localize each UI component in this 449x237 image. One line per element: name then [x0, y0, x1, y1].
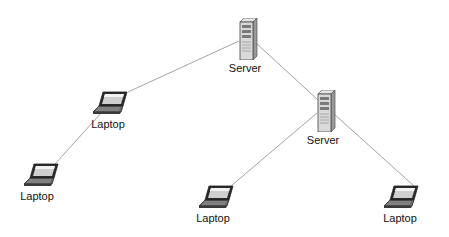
server-node[interactable]: [238, 18, 258, 60]
laptop-icon: [93, 90, 129, 116]
laptop-label: Laptop: [91, 118, 125, 130]
laptop-icon: [384, 184, 420, 210]
link-server-2-laptop-4: [333, 113, 414, 186]
laptop-node[interactable]: [93, 90, 129, 116]
server-label: Server: [229, 62, 261, 74]
link-server-2-laptop-3: [231, 113, 317, 186]
link-server-1-server-2: [256, 43, 318, 100]
server-tower-icon: [238, 18, 258, 60]
laptop-node[interactable]: [24, 162, 60, 188]
laptop-node[interactable]: [199, 184, 235, 210]
server-node[interactable]: [316, 90, 336, 132]
laptop-label: Laptop: [383, 212, 417, 224]
laptop-label: Laptop: [20, 190, 54, 202]
laptop-icon: [24, 162, 60, 188]
server-tower-icon: [316, 90, 336, 132]
laptop-label: Laptop: [196, 212, 230, 224]
network-diagram: Server Server Laptop: [0, 0, 449, 237]
laptop-node[interactable]: [384, 184, 420, 210]
laptop-icon: [199, 184, 235, 210]
link-server-1-laptop-1: [128, 41, 239, 92]
server-label: Server: [307, 134, 339, 146]
